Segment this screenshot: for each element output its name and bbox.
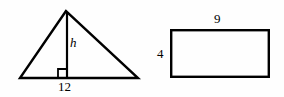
- rectangle-width-label: 9: [214, 12, 221, 25]
- rectangle-height-label: 4: [157, 47, 164, 60]
- right-angle-marker-icon: [58, 69, 67, 78]
- triangle-outline: [20, 11, 138, 78]
- triangle-height-label: h: [70, 36, 77, 49]
- rectangle-outline: [171, 30, 269, 77]
- triangle-base-label: 12: [58, 80, 71, 93]
- figure-canvas: [0, 0, 284, 97]
- geometry-figure: 12 h 9 4: [0, 0, 284, 97]
